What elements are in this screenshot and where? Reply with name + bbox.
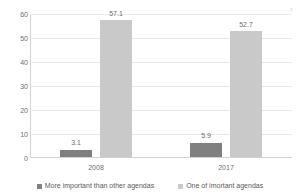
x-tick-label-2017: 2017	[218, 164, 234, 171]
y-tick-label-50: 50	[4, 35, 28, 42]
y-tick-label-20: 20	[4, 107, 28, 114]
legend-item-more-important[interactable]: More important than other agendas	[37, 182, 154, 190]
corner-artifact-mark	[290, 8, 293, 11]
y-tick-label-40: 40	[4, 59, 28, 66]
bar-2017-one-of-important[interactable]	[230, 31, 262, 158]
y-tick-label-10: 10	[4, 131, 28, 138]
plot-area: 3.1 57.1 5.9 52.7	[30, 14, 292, 158]
data-label-2017-more-important: 5.9	[201, 132, 211, 139]
x-tick-label-2008: 2008	[88, 164, 104, 171]
data-label-2017-one-of-important: 52.7	[239, 21, 253, 28]
legend-swatch-light-icon	[178, 184, 183, 189]
legend-label-one-of-important: One of imortant agendas	[186, 182, 263, 190]
bar-2008-more-important[interactable]	[60, 150, 92, 157]
legend-label-more-important: More important than other agendas	[45, 182, 154, 190]
legend-item-one-of-important[interactable]: One of imortant agendas	[178, 182, 263, 190]
y-tick-label-30: 30	[4, 83, 28, 90]
bars	[30, 14, 292, 158]
legend: More important than other agendas One of…	[0, 182, 300, 190]
data-label-2008-one-of-important: 57.1	[109, 10, 123, 17]
bar-2008-one-of-important[interactable]	[100, 20, 132, 157]
bar-chart: 60 50 40 30 20 10 0 3.1 57.1 5.9 52.7	[0, 0, 300, 194]
data-label-2008-more-important: 3.1	[71, 139, 81, 146]
y-tick-label-60: 60	[4, 11, 28, 18]
y-tick-label-0: 0	[4, 155, 28, 162]
bar-2017-more-important[interactable]	[190, 143, 222, 157]
legend-swatch-dark-icon	[37, 184, 42, 189]
